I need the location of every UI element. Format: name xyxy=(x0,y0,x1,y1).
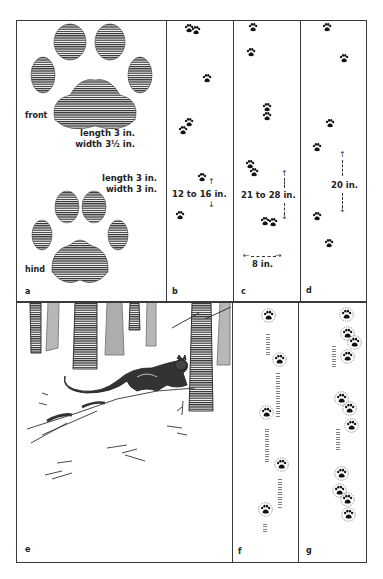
paw-print-icon xyxy=(248,23,258,32)
paw-print-icon xyxy=(312,212,322,221)
paw-print-icon xyxy=(191,26,201,35)
straddle-c: 8 in. xyxy=(252,259,273,270)
paw-print-icon xyxy=(340,492,355,507)
drag-mark xyxy=(266,333,270,355)
drag-mark xyxy=(263,522,267,532)
paw-print-icon xyxy=(268,218,278,227)
paw-print-icon xyxy=(344,418,359,433)
front-length: length 3 in. xyxy=(75,128,135,139)
paw-print-icon xyxy=(274,457,289,472)
drag-mark xyxy=(332,345,336,367)
paw-print-icon xyxy=(339,307,354,322)
drag-mark xyxy=(265,427,269,462)
paw-print-icon xyxy=(324,239,334,248)
measure-line xyxy=(284,178,285,188)
panel-letter-c: c xyxy=(241,288,246,296)
panel-letter-a: a xyxy=(25,288,30,296)
paw-print-icon xyxy=(249,168,259,177)
paw-print-icon xyxy=(347,335,362,350)
paw-print-icon xyxy=(246,48,256,57)
paw-print-icon xyxy=(262,112,272,121)
arrow-left-icon: ← xyxy=(243,252,250,260)
forest-cat-scene xyxy=(17,303,232,561)
paw-print-icon xyxy=(334,466,349,481)
measure-line xyxy=(342,160,343,176)
arrow-down-icon: ↓ xyxy=(339,206,346,214)
panel-letter-d: d xyxy=(306,287,312,295)
paw-print-icon xyxy=(342,401,357,416)
measure-c: 21 to 28 in. xyxy=(241,190,296,201)
paw-print-icon xyxy=(197,173,207,182)
paw-print-icon xyxy=(178,126,188,135)
paw-print-icon xyxy=(312,143,322,152)
front-dimensions: length 3 in. width 3½ in. xyxy=(75,128,135,149)
panel-letter-b: b xyxy=(172,288,178,296)
arrow-right-icon: → xyxy=(275,252,282,260)
paw-print-icon xyxy=(339,54,349,63)
paw-print-icon xyxy=(262,103,272,112)
paw-print-icon xyxy=(325,119,335,128)
drag-mark xyxy=(276,372,280,417)
arrow-up-icon: ↑ xyxy=(208,178,215,186)
hind-length: length 3 in. xyxy=(100,173,157,184)
paw-print-icon xyxy=(322,23,332,32)
drag-mark xyxy=(336,428,340,450)
front-label: front xyxy=(25,112,47,120)
paw-print-icon xyxy=(272,352,287,367)
panel-letter-e: e xyxy=(25,546,30,554)
straddle-line xyxy=(251,256,276,257)
panel-b-walking-track xyxy=(166,20,234,302)
measure-d: 20 in. xyxy=(331,180,358,191)
hind-paw-print-icon xyxy=(30,190,130,290)
panel-d-trotting-track xyxy=(300,20,367,302)
paw-print-icon xyxy=(175,211,185,220)
measure-b: 12 to 16 in. xyxy=(172,189,227,200)
arrow-down-icon: ↓ xyxy=(208,201,215,209)
paw-print-icon xyxy=(259,405,274,420)
arrow-down-icon: ↓ xyxy=(281,213,288,221)
arrow-up-icon: ↑ xyxy=(281,170,288,178)
paw-print-icon xyxy=(341,507,356,522)
arrow-up-icon: ↑ xyxy=(339,151,346,159)
panel-letter-g: g xyxy=(306,547,312,555)
paw-print-icon xyxy=(258,502,273,517)
paw-print-icon xyxy=(261,308,276,323)
hind-label: hind xyxy=(25,266,45,274)
panel-letter-f: f xyxy=(238,548,241,556)
drag-mark xyxy=(278,478,282,508)
paw-print-icon xyxy=(340,349,355,364)
snow-slope xyxy=(27,388,195,479)
paw-print-icon xyxy=(202,74,212,83)
front-width: width 3½ in. xyxy=(75,139,135,150)
tree-trunk xyxy=(30,303,231,411)
